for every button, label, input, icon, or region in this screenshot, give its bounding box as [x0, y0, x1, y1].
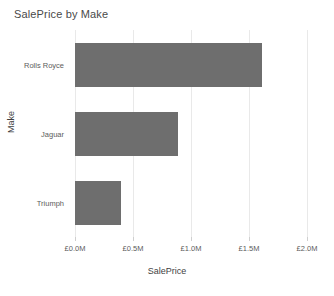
- chart-title: SalePrice by Make: [14, 8, 108, 20]
- y-axis-tick-labels: Rolls RoyceJaguarTriumph: [0, 30, 70, 237]
- bar[interactable]: [75, 181, 121, 225]
- y-axis-tick-label: Triumph: [37, 198, 64, 207]
- bar[interactable]: [75, 112, 178, 156]
- x-axis-ticks: £0.0M£0.5M£1.0M£1.5M£2.0M: [0, 237, 334, 259]
- x-axis-tick-mark: [75, 237, 76, 241]
- y-axis-tick-label: Rolls Royce: [24, 60, 64, 69]
- x-axis-tick-label: £0.5M: [123, 244, 144, 253]
- x-axis-tick-mark: [191, 237, 192, 241]
- gridline: [307, 30, 308, 237]
- x-axis-tick-label: £0.0M: [65, 244, 86, 253]
- y-axis-tick-label: Jaguar: [41, 129, 64, 138]
- plot-area: [75, 30, 297, 237]
- x-axis-tick-mark: [249, 237, 250, 241]
- bar-fill: [75, 112, 178, 156]
- bar[interactable]: [75, 43, 262, 87]
- x-axis-tick-label: £1.0M: [181, 244, 202, 253]
- x-axis-tick-label: £2.0M: [297, 244, 318, 253]
- chart-container: SalePrice by Make Make Rolls RoyceJaguar…: [0, 0, 334, 296]
- x-axis-tick-label: £1.5M: [239, 244, 260, 253]
- x-axis-tick-mark: [307, 237, 308, 241]
- x-axis-title: SalePrice: [0, 266, 334, 276]
- bar-fill: [75, 181, 121, 225]
- x-axis-tick-mark: [133, 237, 134, 241]
- bar-fill: [75, 43, 262, 87]
